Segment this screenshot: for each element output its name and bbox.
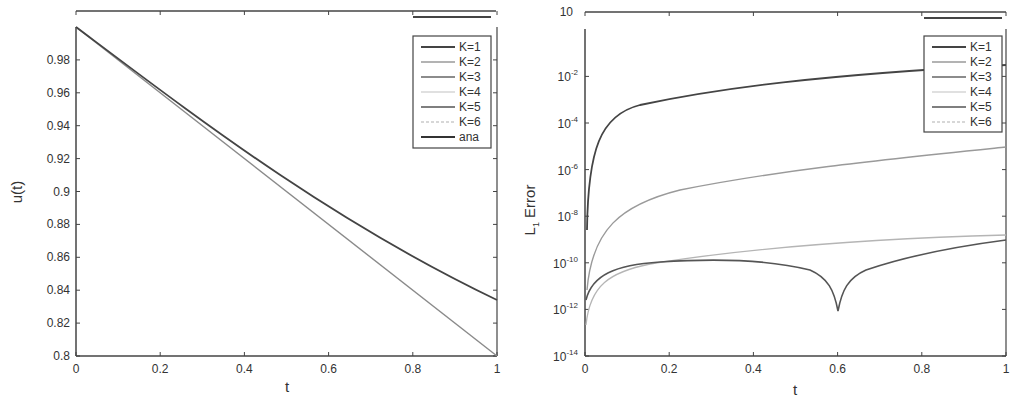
legend-label: K=4 (459, 85, 481, 99)
y-tick-label: 0.8 (53, 349, 70, 363)
svg-text:L1 Error: L1 Error (521, 185, 541, 236)
y-tick-label: 10-6 (558, 162, 579, 178)
y-tick-label: 0.82 (47, 316, 71, 330)
legend-label: K=1 (970, 40, 992, 54)
left-y-label: u(t) (8, 181, 25, 204)
y-tick-label: 0.98 (47, 53, 71, 67)
legend-label: K=1 (459, 40, 481, 54)
x-tick-label: 0.8 (913, 362, 930, 376)
y-tick-label: 0.86 (47, 250, 71, 264)
right-y-label: L1 Error (521, 185, 541, 236)
legend-label: K=5 (459, 100, 481, 114)
x-tick-label: 0.6 (829, 362, 846, 376)
y-tick-label: 0.88 (47, 217, 71, 231)
y-tick-label: 10-12 (553, 301, 578, 317)
y-tick-label: 10-2 (558, 68, 579, 84)
y-tick-label: 0.9 (53, 185, 70, 199)
x-tick-label: 0.2 (661, 362, 678, 376)
x-tick-label: 0 (582, 362, 589, 376)
x-tick-label: 0.2 (152, 362, 169, 376)
y-tick-label: 10-4 (558, 115, 579, 131)
y-tick-label: 0.96 (47, 86, 71, 100)
figure: 0.80.820.840.860.880.90.920.940.960.98 0… (0, 0, 1014, 407)
right-chart: 10-1410-1210-1010-810-610-410-210 00.20.… (521, 5, 1010, 398)
legend-label: K=3 (459, 70, 481, 84)
curve-k2 (587, 147, 1006, 290)
legend-label: K=3 (970, 70, 992, 84)
legend-label: K=4 (970, 85, 992, 99)
left-x-label: t (285, 378, 290, 395)
y-tick-label: 10-8 (558, 208, 579, 224)
x-tick-label: 0.4 (236, 362, 253, 376)
y-tick-label: 10-14 (553, 348, 578, 364)
left-chart: 0.80.820.840.860.880.90.920.940.960.98 0… (8, 11, 501, 395)
curve-k3 (586, 240, 1006, 311)
legend-label: K=6 (970, 115, 992, 129)
y-tick-label: 0.92 (47, 152, 71, 166)
x-tick-label: 1 (1003, 362, 1010, 376)
x-tick-label: 0.4 (745, 362, 762, 376)
legend-label: ana (459, 130, 479, 144)
right-y-label-main: L (521, 227, 538, 235)
x-tick-label: 1 (494, 362, 501, 376)
legend-label: K=5 (970, 100, 992, 114)
x-tick-label: 0.8 (404, 362, 421, 376)
x-tick-label: 0.6 (320, 362, 337, 376)
y-tick-label-top: 10 (560, 5, 574, 19)
y-tick-label: 0.84 (47, 283, 71, 297)
legend-label: K=2 (970, 55, 992, 69)
curve-k4 (586, 235, 1006, 325)
left-legend: K=1K=2K=3K=4K=5K=6ana (413, 36, 491, 148)
right-x-label: t (793, 381, 798, 398)
right-y-label-rest: Error (521, 185, 538, 223)
legend-label: K=2 (459, 55, 481, 69)
right-legend: K=1K=2K=3K=4K=5K=6 (924, 36, 1002, 132)
x-tick-label: 0 (73, 362, 80, 376)
legend-label: K=6 (459, 115, 481, 129)
y-tick-label: 10-10 (553, 255, 578, 271)
y-tick-label: 0.94 (47, 119, 71, 133)
